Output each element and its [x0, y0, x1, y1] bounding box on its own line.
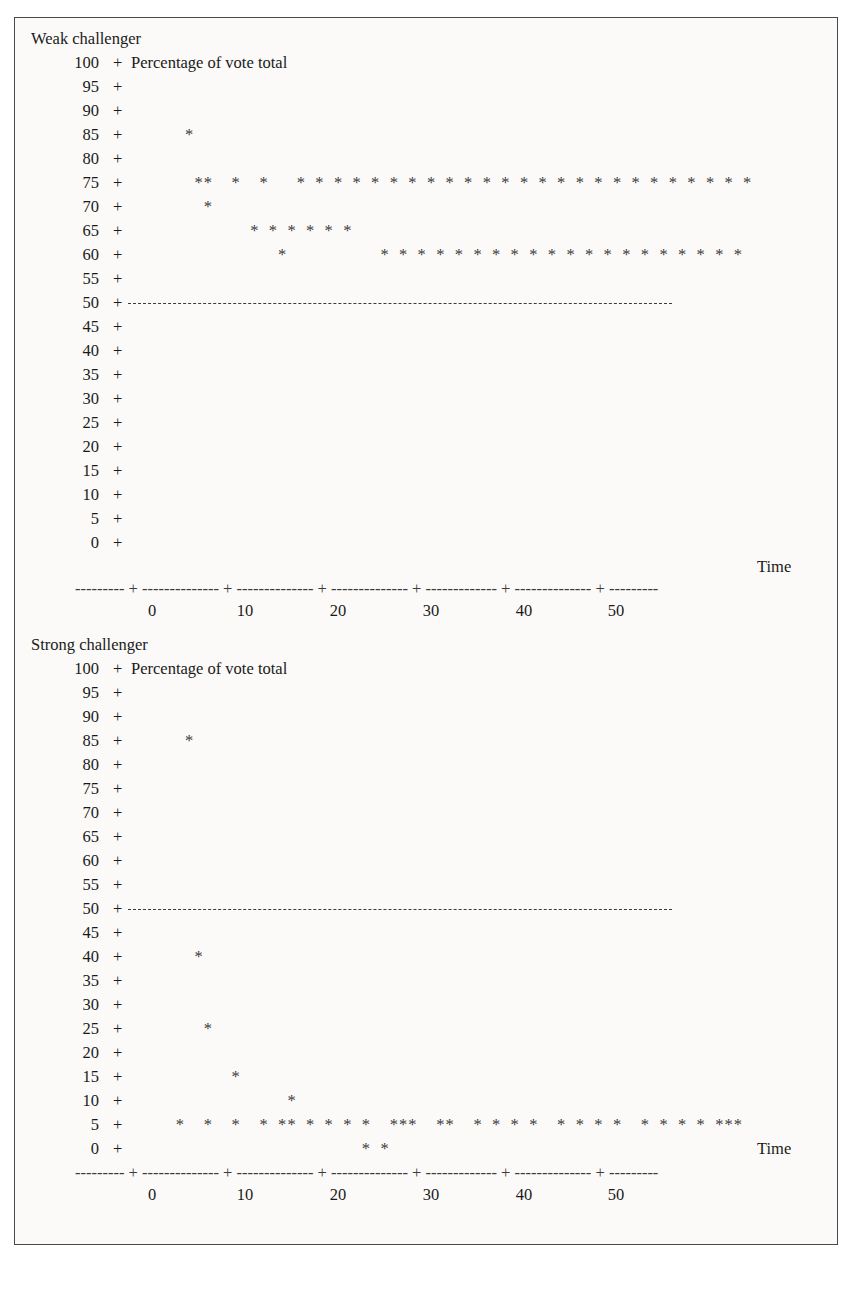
x-tick-label: 20	[323, 602, 353, 620]
data-point: *	[649, 174, 659, 192]
data-point: *	[249, 222, 259, 240]
scatter-plot-weak: ****************************************…	[15, 24, 837, 624]
data-point: *	[231, 1116, 241, 1134]
data-point: *	[231, 174, 241, 192]
data-point: *	[305, 222, 315, 240]
scatter-plot-strong: *************************************	[15, 630, 837, 1230]
x-tick-label: 40	[509, 1186, 539, 1204]
data-point: *	[538, 174, 548, 192]
data-point: *	[556, 1116, 566, 1134]
data-point: *	[194, 948, 204, 966]
data-point: *	[705, 174, 715, 192]
data-point: *	[259, 174, 269, 192]
data-point: *	[686, 174, 696, 192]
data-point: *	[724, 174, 734, 192]
x-tick-label: 40	[509, 602, 539, 620]
data-point: *	[398, 246, 408, 264]
panel-strong-challenger: Strong challenger Percentage of vote tot…	[15, 630, 837, 1230]
x-axis-title-strong: Time	[757, 1140, 791, 1158]
x-tick-label: 10	[230, 602, 260, 620]
x-tick-label: 50	[601, 1186, 631, 1204]
data-point: *	[640, 246, 650, 264]
data-point: *	[463, 174, 473, 192]
data-point: *	[528, 246, 538, 264]
figure-frame: Weak challenger Percentage of vote total…	[14, 17, 838, 1245]
data-point: *	[352, 174, 362, 192]
data-point: *	[389, 174, 399, 192]
data-point: *	[231, 1068, 241, 1086]
data-point: *	[314, 174, 324, 192]
data-point: *	[324, 222, 334, 240]
data-point: *	[287, 222, 297, 240]
data-point: *	[528, 1116, 538, 1134]
data-point: *	[333, 174, 343, 192]
data-point: *	[296, 174, 306, 192]
x-tick-label: 30	[416, 1186, 446, 1204]
data-point: *	[547, 246, 557, 264]
data-point: *	[287, 1092, 297, 1110]
data-point: *	[500, 174, 510, 192]
x-tick-label: 10	[230, 1186, 260, 1204]
x-axis-title-weak: Time	[757, 558, 791, 576]
data-point: *	[733, 246, 743, 264]
data-point: *	[305, 1116, 315, 1134]
data-point: *	[593, 174, 603, 192]
data-point: *	[277, 246, 287, 264]
data-point: *	[184, 732, 194, 750]
x-tick-label: 0	[137, 602, 167, 620]
data-point: *	[268, 222, 278, 240]
data-point: *	[640, 1116, 650, 1134]
x-axis-rule-weak: --------- + -------------- + -----------…	[75, 580, 658, 598]
data-point: *	[491, 246, 501, 264]
data-point: *	[696, 1116, 706, 1134]
data-point: *	[519, 174, 529, 192]
data-point: *	[584, 246, 594, 264]
data-point: *	[454, 246, 464, 264]
data-point: *	[203, 1020, 213, 1038]
data-point: *	[612, 174, 622, 192]
data-point: *	[203, 198, 213, 216]
data-point: *	[714, 246, 724, 264]
data-point: *	[593, 1116, 603, 1134]
data-point: *	[482, 174, 492, 192]
data-point: *	[361, 1140, 371, 1158]
data-point: *	[491, 1116, 501, 1134]
data-point: *	[259, 1116, 269, 1134]
data-point: *	[733, 1116, 743, 1134]
data-point: *	[203, 174, 213, 192]
data-point: *	[417, 246, 427, 264]
data-point: *	[612, 1116, 622, 1134]
x-tick-label: 20	[323, 1186, 353, 1204]
data-point: *	[407, 174, 417, 192]
data-point: *	[575, 174, 585, 192]
x-tick-label: 50	[601, 602, 631, 620]
data-point: *	[380, 1140, 390, 1158]
data-point: *	[361, 1116, 371, 1134]
data-point: *	[184, 126, 194, 144]
data-point: *	[407, 1116, 417, 1134]
data-point: *	[324, 1116, 334, 1134]
data-point: *	[426, 174, 436, 192]
data-point: *	[566, 246, 576, 264]
data-point: *	[510, 1116, 520, 1134]
data-point: *	[696, 246, 706, 264]
data-point: *	[203, 1116, 213, 1134]
data-point: *	[659, 246, 669, 264]
data-point: *	[473, 1116, 483, 1134]
data-point: *	[677, 1116, 687, 1134]
data-point: *	[510, 246, 520, 264]
data-point: *	[575, 1116, 585, 1134]
data-point: *	[668, 174, 678, 192]
data-point: *	[473, 246, 483, 264]
data-point: *	[621, 246, 631, 264]
data-point: *	[659, 1116, 669, 1134]
panel-weak-challenger: Weak challenger Percentage of vote total…	[15, 24, 837, 624]
data-point: *	[445, 174, 455, 192]
data-point: *	[556, 174, 566, 192]
data-point: *	[742, 174, 752, 192]
data-point: *	[603, 246, 613, 264]
data-point: *	[631, 174, 641, 192]
x-tick-label: 0	[137, 1186, 167, 1204]
data-point: *	[435, 246, 445, 264]
data-point: *	[445, 1116, 455, 1134]
